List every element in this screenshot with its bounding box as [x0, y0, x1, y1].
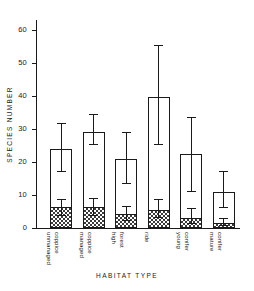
error-bar	[213, 219, 235, 228]
y-axis-tick: 20	[32, 162, 36, 163]
error-bar-cap	[154, 199, 163, 200]
error-bar-cap	[219, 218, 228, 219]
x-axis-title: HABITAT TYPE	[0, 272, 254, 279]
y-axis-title-holder: SPECIES NUMBER	[4, 20, 18, 229]
error-bar-cap	[122, 220, 131, 221]
y-axis-tick-label: 50	[18, 58, 27, 67]
category-label-line: coppice	[54, 232, 60, 254]
error-bar-stem	[158, 46, 159, 145]
y-axis-tick: 40	[32, 96, 36, 97]
error-bar-stem	[191, 209, 192, 224]
error-bar	[83, 199, 105, 228]
error-bar-cap	[154, 144, 163, 145]
error-bar-cap	[57, 171, 66, 172]
error-bar-stem	[191, 118, 192, 192]
y-axis-line	[36, 20, 37, 229]
error-bar-cap	[187, 191, 196, 192]
y-axis-tick: 60	[32, 30, 36, 31]
category-label-line: high	[111, 232, 117, 244]
y-axis-tick-label: 40	[18, 91, 27, 100]
error-bar-stem	[61, 124, 62, 172]
error-bar-stem	[93, 199, 94, 216]
chart-figure: SPECIES NUMBER 0102030405060 unmanagedco…	[0, 0, 254, 291]
error-bar-cap	[154, 217, 163, 218]
error-bar-cap	[57, 215, 66, 216]
error-bar-cap	[187, 223, 196, 224]
error-bar-cap	[219, 171, 228, 172]
error-bar-cap	[89, 215, 98, 216]
error-bar-cap	[122, 206, 131, 207]
y-axis-tick: 30	[32, 129, 36, 130]
error-bar-cap	[89, 144, 98, 145]
error-bar-cap	[154, 45, 163, 46]
category-label-line: forest	[119, 232, 125, 248]
y-axis-tick: 10	[32, 195, 36, 196]
error-bar-cap	[122, 183, 131, 184]
error-bar	[50, 200, 72, 228]
category-label-line: unmanaged	[46, 232, 52, 265]
category-label-line: conifer	[184, 232, 190, 251]
y-axis-tick: 50	[32, 63, 36, 64]
y-axis-tick-label: 30	[18, 124, 27, 133]
category-label-line: mature	[209, 232, 215, 252]
error-bar-stem	[223, 172, 224, 208]
error-bar	[148, 200, 170, 228]
error-bar-stem	[61, 200, 62, 217]
error-bar-stem	[158, 200, 159, 218]
error-bar-cap	[89, 114, 98, 115]
y-axis-tick-label: 20	[18, 157, 27, 166]
error-bar-cap	[89, 198, 98, 199]
error-bar-cap	[219, 207, 228, 208]
error-bar-cap	[57, 123, 66, 124]
category-label-line: conifer	[217, 232, 223, 251]
category-label-line: managed	[79, 232, 85, 258]
plot-area: 0102030405060 unmanagedcoppicemanagedcop…	[36, 20, 246, 229]
error-bar-cap	[57, 199, 66, 200]
category-label-line: coppice	[87, 232, 93, 254]
error-bar-cap	[122, 132, 131, 133]
error-bar-cap	[187, 117, 196, 118]
category-label-line: ride	[144, 232, 150, 243]
error-bar-stem	[126, 207, 127, 221]
category-label-line: young	[176, 232, 182, 249]
error-bar-cap	[219, 225, 228, 226]
error-bar-stem	[126, 133, 127, 185]
error-bar	[115, 207, 137, 228]
error-bar-stem	[93, 115, 94, 145]
y-axis-tick-label: 10	[18, 190, 27, 199]
x-axis-line	[36, 228, 240, 229]
y-axis-tick-label: 0	[23, 223, 27, 232]
y-axis-tick: 0	[32, 228, 36, 229]
y-axis-tick-label: 60	[18, 25, 27, 34]
error-bar	[180, 209, 202, 228]
error-bar-cap	[187, 208, 196, 209]
